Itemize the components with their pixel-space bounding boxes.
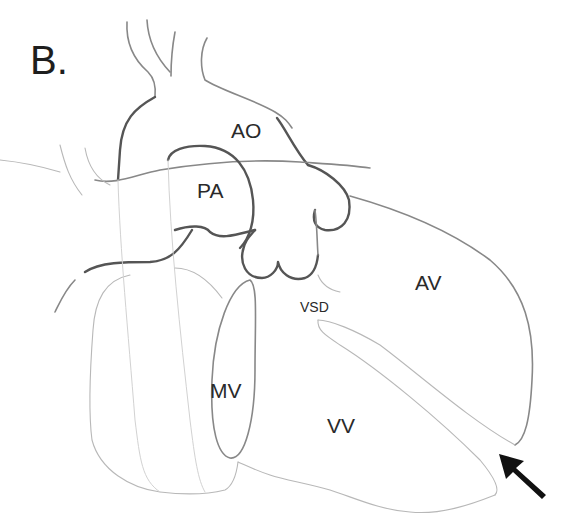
label-pulmonary-artery: PA: [197, 180, 223, 201]
label-arterial-ventricle: AV: [415, 272, 441, 293]
heart-diagram: B. AO PA VSD AV MV VV: [0, 0, 562, 529]
arrow-icon: [499, 454, 546, 499]
panel-label: B.: [30, 40, 68, 80]
label-venous-ventricle: VV: [327, 415, 355, 436]
label-aorta: AO: [231, 120, 261, 141]
label-vsd: VSD: [300, 300, 329, 314]
arrow-indicator: [0, 0, 562, 529]
label-mitral-valve: MV: [210, 380, 242, 401]
